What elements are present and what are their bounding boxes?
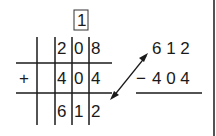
sum-ones: 2 (91, 103, 100, 120)
addend2-ones: 4 (91, 70, 100, 87)
sum-tens: 1 (74, 103, 83, 120)
check-minuend: 6 1 2 (152, 40, 190, 57)
sum-hundreds: 6 (57, 103, 66, 120)
addend1-hundreds: 2 (57, 40, 66, 57)
addend2-tens: 0 (74, 70, 83, 87)
minus-operator: − (136, 70, 146, 87)
check-subtrahend: 4 0 4 (152, 70, 190, 87)
carry-digit: 1 (77, 12, 86, 29)
addend2-hundreds: 4 (57, 70, 66, 87)
addend1-tens: 0 (74, 40, 83, 57)
addition-check-diagram: 1 2 0 8 + 4 0 4 6 1 2 6 1 2 − 4 0 4 (0, 0, 216, 136)
plus-operator: + (19, 70, 29, 87)
diagram-lines (0, 0, 216, 136)
arrow-head-up-icon (139, 53, 148, 62)
addend1-ones: 8 (91, 40, 100, 57)
